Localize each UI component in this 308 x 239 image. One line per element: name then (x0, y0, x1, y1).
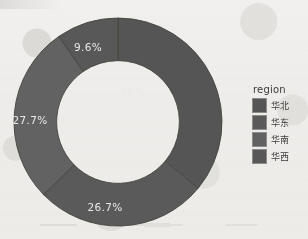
legend-item[interactable]: 华西 (252, 148, 304, 165)
slice-percent-label: 27.7% (13, 114, 47, 126)
donut-slice[interactable] (118, 18, 222, 188)
legend-items: 华北华东华南华西 (252, 97, 304, 165)
legend-color-swatch (252, 149, 267, 164)
slice-percent-label: 9.6% (74, 41, 102, 53)
chart-page: 36%26.7%27.7%9.6% region 华北华东华南华西 (0, 0, 308, 239)
legend-color-swatch (252, 132, 267, 147)
donut-chart: 36%26.7%27.7%9.6% (13, 17, 223, 227)
donut-chart-svg: 36%26.7%27.7%9.6% (13, 17, 223, 227)
legend-item-label: 华东 (271, 116, 289, 129)
page-bleed-top (0, 0, 60, 9)
legend-item-label: 华南 (271, 133, 289, 146)
legend-color-swatch (252, 98, 267, 113)
legend-item-label: 华北 (271, 99, 289, 112)
legend-color-swatch (252, 115, 267, 130)
legend-title: region (253, 84, 304, 95)
slice-percent-label: 26.7% (88, 201, 123, 213)
legend: region 华北华东华南华西 (252, 84, 304, 165)
legend-item[interactable]: 华南 (252, 131, 304, 148)
legend-item[interactable]: 华北 (252, 97, 304, 114)
legend-item[interactable]: 华东 (252, 114, 304, 131)
slice-percent-label: 36% (121, 86, 145, 98)
legend-item-label: 华西 (271, 150, 289, 163)
